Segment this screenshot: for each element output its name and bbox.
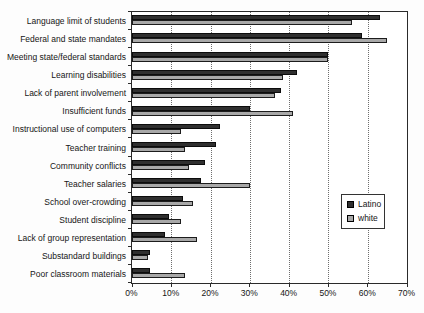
- x-tick-label: 10%: [162, 288, 179, 298]
- category-label: Teacher training: [66, 143, 126, 153]
- y-axis-tick: [128, 101, 131, 102]
- white-bar: [132, 165, 189, 170]
- white-bar: [132, 20, 352, 25]
- legend-label-white: white: [358, 214, 378, 223]
- x-tick-label: 0%: [125, 288, 137, 298]
- gridline: [368, 12, 369, 283]
- y-axis-tick: [128, 11, 131, 12]
- y-axis-tick: [128, 47, 131, 48]
- category-label: Learning disabilities: [51, 70, 126, 80]
- x-tick-label: 60%: [359, 288, 376, 298]
- category-label: Substandard buildings: [42, 251, 126, 261]
- category-label: Teacher salaries: [64, 179, 126, 189]
- white-bar: [132, 129, 181, 134]
- x-tick-label: 40%: [280, 288, 297, 298]
- white-bar: [132, 147, 185, 152]
- latino-swatch-icon: [347, 201, 354, 208]
- legend-label-latino: Latino: [358, 200, 381, 209]
- category-label: Language limit of students: [27, 16, 126, 26]
- white-bar: [132, 75, 283, 80]
- category-label: Instructional use of computers: [13, 124, 126, 134]
- y-axis-tick: [128, 83, 131, 84]
- category-label: Lack of group representation: [18, 233, 126, 243]
- x-axis-tick: [328, 284, 329, 287]
- category-label: Student discipline: [59, 215, 126, 225]
- white-bar: [132, 255, 148, 260]
- y-axis-tick: [128, 156, 131, 157]
- x-axis-tick: [210, 284, 211, 287]
- y-axis-tick: [128, 174, 131, 175]
- y-axis-tick: [128, 119, 131, 120]
- gridline: [328, 12, 329, 283]
- category-label: Meeting state/federal standards: [7, 52, 126, 62]
- category-label: Federal and state mandates: [20, 34, 126, 44]
- x-axis-tick: [132, 284, 133, 287]
- white-bar: [132, 219, 181, 224]
- white-bar: [132, 111, 293, 116]
- y-axis-tick: [128, 228, 131, 229]
- y-axis-tick: [128, 282, 131, 283]
- x-tick-label: 20%: [202, 288, 219, 298]
- y-axis-tick: [128, 210, 131, 211]
- category-label: Lack of parent involvement: [24, 88, 126, 98]
- y-axis-tick: [128, 137, 131, 138]
- y-axis-tick: [128, 264, 131, 265]
- x-tick-label: 70%: [398, 288, 415, 298]
- legend: Latino white: [341, 194, 385, 229]
- x-tick-label: 50%: [319, 288, 336, 298]
- white-bar: [132, 237, 197, 242]
- legend-item-white: white: [347, 214, 384, 223]
- white-swatch-icon: [347, 215, 354, 222]
- x-axis-tick: [367, 284, 368, 287]
- x-tick-label: 30%: [241, 288, 258, 298]
- y-axis-tick: [128, 65, 131, 66]
- category-label: Insufficient funds: [62, 106, 126, 116]
- x-axis-tick: [289, 284, 290, 287]
- white-bar: [132, 93, 275, 98]
- x-axis-tick: [171, 284, 172, 287]
- category-label: Community conflicts: [50, 161, 126, 171]
- white-bar: [132, 201, 193, 206]
- category-labels: Language limit of studentsFederal and st…: [0, 0, 128, 313]
- x-axis-tick: [249, 284, 250, 287]
- y-axis-tick: [128, 246, 131, 247]
- x-axis-tick: [407, 284, 408, 287]
- y-axis-tick: [128, 29, 131, 30]
- plot-area: [131, 11, 408, 284]
- white-bar: [132, 38, 387, 43]
- category-label: School over-crowding: [44, 197, 126, 207]
- white-bar: [132, 57, 328, 62]
- legend-item-latino: Latino: [347, 200, 384, 209]
- white-bar: [132, 183, 250, 188]
- bar-chart-figure: Language limit of studentsFederal and st…: [0, 0, 424, 313]
- white-bar: [132, 273, 185, 278]
- category-label: Poor classroom materials: [30, 269, 126, 279]
- y-axis-tick: [128, 192, 131, 193]
